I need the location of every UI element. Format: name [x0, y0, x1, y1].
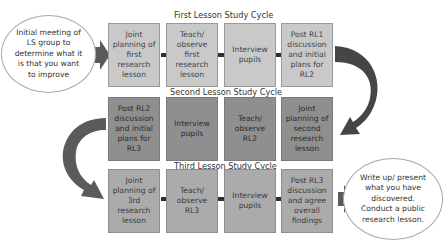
start-node: Initial meeting of LS group to determine…	[1, 15, 96, 93]
end-node-text: Write up/ present what you have discover…	[355, 173, 431, 226]
cycle3-step1: Joint planning of 3rd research lesson	[108, 169, 160, 233]
cycle3-step3: Interview pupils	[224, 169, 276, 233]
cycle2-step4: Post RL2 discussion and initial plans fo…	[108, 97, 160, 161]
cycle2-step3: Interview pupils	[166, 97, 218, 161]
cycle1-title: First Lesson Study Cycle	[174, 10, 273, 20]
cycle1-step2: Teach/ observe first research lesson	[166, 23, 218, 87]
cycle2-title: Second Lesson Study Cycle	[170, 87, 282, 97]
cycle1-step4: Post RL1 discussion and initial plans fo…	[281, 23, 333, 87]
cycle2-step1: Joint planning of second research lesson	[281, 97, 333, 161]
cycle3-step4: Post RL3 discussion and agree overall fi…	[281, 169, 333, 233]
cycle1-step1: Joint planning of first research lesson	[108, 23, 160, 87]
start-node-text: Initial meeting of LS group to determine…	[15, 28, 83, 81]
end-node: Write up/ present what you have discover…	[343, 158, 443, 240]
cycle2-step2: Teach/ observe RL2	[224, 97, 276, 161]
cycle3-step2: Teach/ observe RL3	[166, 169, 218, 233]
curved-arrow-right-icon	[335, 46, 378, 135]
lesson-study-diagram: Initial meeting of LS group to determine…	[0, 0, 445, 245]
curved-arrow-left-icon	[63, 118, 106, 199]
cycle1-step3: Interview pupils	[224, 23, 276, 87]
